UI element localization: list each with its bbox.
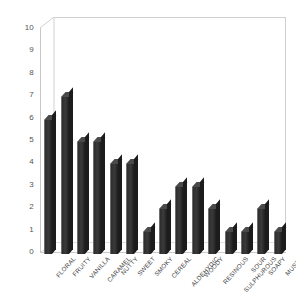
bars-layer — [40, 17, 286, 253]
bar-slot — [126, 17, 134, 253]
bar-slot — [61, 17, 69, 253]
bar-side-face — [101, 132, 105, 254]
y-axis-tick-label: 8 — [29, 69, 34, 77]
bar-side-face — [216, 199, 220, 254]
bar — [274, 232, 282, 254]
bar-slot — [192, 17, 200, 253]
x-axis-category-labels: FLORALFRUITYVANILLACARAMELNUTTYSWEETSMOK… — [40, 253, 286, 306]
bar-slot — [175, 17, 183, 253]
bar — [192, 187, 200, 254]
bar-slot — [208, 17, 216, 253]
bar — [241, 232, 249, 254]
bar-slot — [257, 17, 265, 253]
y-axis-tick-label: 6 — [29, 114, 34, 122]
bar-chart: 109876543210 FLORALFRUITYVANILLACARAMELN… — [0, 0, 296, 306]
bar-side-face — [52, 110, 56, 254]
bar — [225, 232, 233, 254]
bar — [44, 120, 52, 254]
x-axis-category-label: RESINOUS — [222, 255, 250, 285]
bar-side-face — [85, 132, 89, 254]
bar — [208, 209, 216, 254]
bar — [93, 142, 101, 254]
bar-slot — [225, 17, 233, 253]
y-axis-tick-label: 5 — [29, 136, 34, 144]
bar — [159, 209, 167, 254]
bar-slot — [274, 17, 282, 253]
y-axis-tick-label: 2 — [29, 203, 34, 211]
bar-side-face — [233, 222, 237, 254]
bar-slot — [159, 17, 167, 253]
bar-side-face — [282, 222, 286, 254]
bar-slot — [44, 17, 52, 253]
bar — [110, 164, 118, 254]
bar-side-face — [134, 155, 138, 254]
bar-side-face — [249, 222, 253, 254]
bar-slot — [143, 17, 151, 253]
y-axis-tick-labels: 109876543210 — [0, 0, 40, 306]
bar-slot — [77, 17, 85, 253]
bar — [257, 209, 265, 254]
y-axis-tick-label: 0 — [29, 248, 34, 256]
y-axis-tick-label: 9 — [29, 46, 34, 54]
bar — [77, 142, 85, 254]
bar — [61, 97, 69, 254]
bar — [175, 187, 183, 254]
bar-side-face — [151, 222, 155, 254]
bar-side-face — [118, 155, 122, 254]
bar-side-face — [200, 177, 204, 254]
y-axis-tick-label: 1 — [29, 226, 34, 234]
bar — [126, 164, 134, 254]
y-axis-tick-label: 3 — [29, 181, 34, 189]
bar-side-face — [167, 199, 171, 254]
bar — [143, 232, 151, 254]
bar-slot — [110, 17, 118, 253]
y-axis-tick-label: 10 — [25, 24, 34, 32]
bar-slot — [93, 17, 101, 253]
bar-side-face — [265, 199, 269, 254]
y-axis-tick-label: 7 — [29, 91, 34, 99]
bar-side-face — [183, 177, 187, 254]
y-axis-tick-label: 4 — [29, 158, 34, 166]
bar-side-face — [69, 87, 73, 254]
bar-slot — [241, 17, 249, 253]
